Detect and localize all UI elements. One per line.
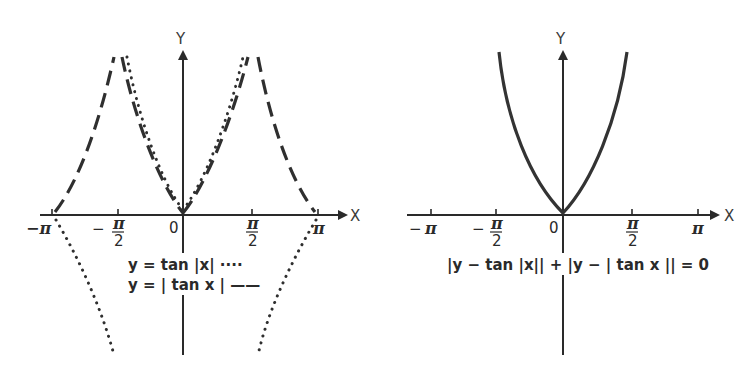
- right-label-zero: 0: [549, 219, 559, 237]
- tan-abs-x-curve: [258, 220, 316, 355]
- right-label-neg-sign: −: [472, 220, 485, 238]
- legend-tan-abs-x: y = tan |x| ····: [128, 256, 243, 275]
- abs-tan-x-curve: [258, 57, 315, 212]
- right-label-neg-sign: −: [409, 220, 422, 238]
- figure-canvas: Y X −π − π 2 0 π 2 π y = tan |x| ···· y …: [0, 0, 751, 375]
- right-x-label: X: [724, 207, 734, 225]
- right-label-neg-half-pi-den: 2: [492, 232, 502, 250]
- left-label-pi: π: [312, 219, 325, 238]
- right-label-pi: π: [691, 219, 704, 238]
- right-label-neg-pi: π: [424, 219, 437, 238]
- left-label-neg-sign: −: [92, 220, 105, 238]
- left-label-neg-pi: −π: [26, 219, 51, 238]
- right-label-half-pi-num: π: [626, 214, 639, 233]
- tan-abs-x-curve: [183, 57, 243, 210]
- left-label-half-pi-num: π: [246, 214, 259, 233]
- left-label-neg-half-pi-den: 2: [114, 232, 124, 250]
- tan-abs-x-curve: [127, 57, 183, 210]
- equation-label: |y − tan |x|| + |y − | tan x || = 0: [447, 256, 709, 275]
- left-label-half-pi-den: 2: [248, 232, 258, 250]
- left-label-neg-half-pi-num: π: [112, 214, 125, 233]
- right-label-half-pi-den: 2: [628, 232, 638, 250]
- left-y-label: Y: [175, 30, 186, 48]
- abs-tan-x-curve: [55, 57, 114, 212]
- left-graph: Y X −π − π 2 0 π 2 π y = tan |x| ···· y …: [26, 30, 360, 355]
- right-label-neg-half-pi-num: π: [490, 214, 503, 233]
- right-y-label: Y: [555, 30, 566, 48]
- left-x-label: X: [350, 207, 360, 225]
- tan-abs-x-curve: [56, 220, 114, 355]
- right-graph: Y X − π − π 2 0 π 2 π |y − tan |x|| + |y…: [407, 30, 734, 355]
- left-label-zero: 0: [169, 219, 179, 237]
- abs-tan-x-curve: [122, 57, 183, 213]
- legend-abs-tan-x: y = | tan x | ——: [128, 276, 260, 295]
